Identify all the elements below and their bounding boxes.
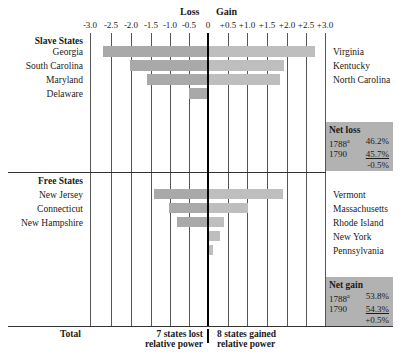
state-label: New Jersey (3, 190, 83, 200)
share-value: 45.7% (366, 149, 389, 160)
state-label: Pennsylvania (333, 246, 384, 256)
net-loss-box: Net loss 1788a 46.2% 1790 45.7% -0.5% (326, 122, 393, 171)
year-label: 1788 (329, 294, 347, 304)
net-row-1790: 1790 45.7% (329, 149, 393, 160)
loss-bar-south-carolina (130, 60, 208, 71)
section-label-slave: Slave States (3, 36, 83, 46)
year-label: 1790 (329, 304, 347, 315)
net-row-1790: 1790 54.3% (329, 304, 393, 315)
gain-bar-north-carolina (208, 74, 280, 85)
footnote-marker: a (347, 138, 350, 144)
gain-bar-massachusetts (208, 203, 248, 213)
loss-bar-new-hampshire (177, 217, 208, 227)
state-label: Delaware (3, 89, 83, 99)
net-gain-box: Net gain 1788a 53.8% 1790 54.3% +0.5% (326, 277, 393, 326)
gridline (287, 33, 288, 326)
state-label: Massachusetts (333, 204, 388, 214)
state-label: Vermont (333, 190, 366, 200)
total-lost-line2: relative power (145, 339, 203, 349)
gain-bar-kentucky (208, 60, 284, 71)
year-label: 1790 (329, 149, 347, 160)
loss-bar-delaware (189, 88, 208, 99)
net-row-1788: 1788a 46.2% (329, 136, 393, 150)
total-gained-line2: relative power (217, 339, 276, 349)
state-label: North Carolina (333, 75, 390, 85)
state-label: Georgia (3, 47, 83, 57)
loss-bar-connecticut (169, 203, 208, 213)
net-change: -0.5% (329, 160, 393, 171)
loss-bar-georgia (103, 46, 208, 57)
net-loss-title: Net loss (329, 125, 393, 136)
net-row-1788: 1788a 53.8% (329, 291, 393, 305)
loss-bar-new-jersey (154, 189, 208, 199)
gain-bar-rhode-island (208, 217, 224, 227)
gridline (90, 33, 91, 326)
total-gained: 8 states gained relative power (217, 329, 276, 349)
zero-axis (207, 33, 209, 326)
total-gained-line1: 8 states gained (217, 329, 276, 339)
state-label: New York (333, 232, 372, 242)
gain-header: Gain (216, 6, 237, 17)
state-label: South Carolina (3, 61, 83, 71)
state-label: Connecticut (3, 204, 83, 214)
gain-bar-virginia (208, 46, 315, 57)
net-change: +0.5% (329, 315, 393, 326)
footnote-marker: a (347, 293, 350, 299)
gridline (111, 33, 112, 326)
loss-bar-maryland (147, 74, 208, 85)
state-label: Virginia (333, 47, 364, 57)
share-value: 53.8% (366, 291, 389, 305)
section-divider (8, 172, 326, 173)
total-lost: 7 states lost relative power (145, 329, 203, 349)
total-divider (207, 329, 209, 343)
gridline (131, 33, 132, 326)
share-value: 54.3% (366, 304, 389, 315)
state-label: Maryland (3, 75, 83, 85)
state-label: Rhode Island (333, 218, 383, 228)
tick-label: +3.0 (310, 20, 340, 30)
state-label: Kentucky (333, 61, 370, 71)
gain-bar-new-york (208, 231, 220, 241)
net-gain-title: Net gain (329, 280, 393, 291)
total-lost-line1: 7 states lost (145, 329, 203, 339)
section-label-free: Free States (3, 176, 83, 186)
loss-header: Loss (180, 6, 199, 17)
year-label: 1788 (329, 139, 347, 149)
share-value: 46.2% (366, 136, 389, 150)
gain-bar-vermont (208, 189, 283, 199)
state-label: New Hampshire (3, 218, 83, 228)
gridline (306, 33, 307, 326)
bottom-rule (8, 326, 393, 327)
total-label: Total (60, 329, 81, 339)
